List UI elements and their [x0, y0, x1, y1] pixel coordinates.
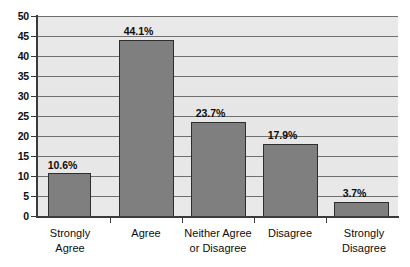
y-tick-mark-10 — [31, 176, 37, 177]
x-label-strongly-disagree: Strongly Disagree — [326, 226, 402, 256]
x-label-line-2: Agree — [34, 241, 106, 256]
y-tick-mark-0 — [31, 216, 37, 217]
y-tick-label-25: 25 — [0, 111, 29, 121]
y-tick-label-20: 20 — [0, 131, 29, 141]
gridline-45 — [37, 36, 398, 37]
x-label-strongly-agree: Strongly Agree — [34, 226, 106, 256]
gridline-30 — [37, 96, 398, 97]
bar-neither — [191, 122, 246, 217]
y-tick-label-30: 30 — [0, 91, 29, 101]
gridline-50 — [37, 16, 398, 17]
y-tick-mark-40 — [31, 56, 37, 57]
x-label-line-2: Disagree — [326, 241, 402, 256]
x-label-neither: Neither Agree or Disagree — [172, 226, 264, 256]
y-tick-mark-35 — [31, 76, 37, 77]
x-tick-mark-4 — [326, 218, 327, 223]
x-label-disagree: Disagree — [254, 226, 326, 241]
data-label-strongly-disagree: 3.7% — [320, 188, 389, 199]
x-tick-mark-2 — [182, 218, 183, 223]
y-tick-label-50: 50 — [0, 11, 29, 21]
x-label-line-1: Neither Agree — [172, 226, 264, 241]
data-label-disagree: 17.9% — [248, 130, 317, 141]
y-tick-label-10: 10 — [0, 171, 29, 181]
y-axis: 50 45 40 35 30 25 20 15 10 5 0 — [0, 0, 37, 267]
gridline-35 — [37, 76, 398, 77]
bar-chart: 50 45 40 35 30 25 20 15 10 5 0 10.6% 44.… — [0, 0, 410, 267]
bar-strongly-disagree — [334, 202, 389, 217]
x-tick-mark-1 — [110, 218, 111, 223]
x-label-line-1: Strongly — [34, 226, 106, 241]
x-tick-mark-3 — [254, 218, 255, 223]
y-tick-mark-15 — [31, 156, 37, 157]
y-tick-mark-50 — [31, 16, 37, 17]
y-tick-mark-5 — [31, 196, 37, 197]
gridline-40 — [37, 56, 398, 57]
data-label-strongly-agree: 10.6% — [28, 160, 97, 171]
y-tick-label-35: 35 — [0, 71, 29, 81]
y-tick-label-15: 15 — [0, 151, 29, 161]
y-tick-label-45: 45 — [0, 31, 29, 41]
x-label-line-1: Strongly — [326, 226, 402, 241]
y-tick-label-5: 5 — [0, 191, 29, 201]
y-tick-mark-45 — [31, 36, 37, 37]
bar-agree — [119, 40, 174, 217]
x-label-line-2: or Disagree — [172, 241, 264, 256]
x-axis-line — [36, 216, 399, 218]
y-tick-mark-25 — [31, 116, 37, 117]
bar-disagree — [263, 144, 318, 217]
y-tick-mark-30 — [31, 96, 37, 97]
y-tick-label-0: 0 — [0, 211, 29, 221]
data-label-agree: 44.1% — [104, 26, 173, 37]
x-label-line-1: Disagree — [254, 226, 326, 241]
y-tick-label-40: 40 — [0, 51, 29, 61]
data-label-neither: 23.7% — [176, 108, 245, 119]
bar-strongly-agree — [48, 173, 91, 217]
y-tick-mark-20 — [31, 136, 37, 137]
